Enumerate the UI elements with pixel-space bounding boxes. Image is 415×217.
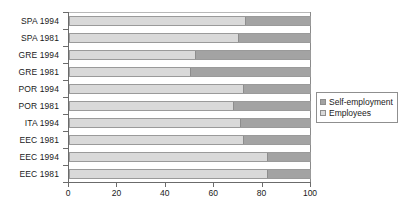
stacked-bar — [69, 118, 311, 128]
bar-segment-self-employment — [245, 17, 310, 25]
stacked-bar — [69, 67, 311, 77]
bar-segment-employees — [70, 85, 243, 93]
stacked-bar — [69, 152, 311, 162]
stacked-bar — [69, 33, 311, 43]
bar-slot — [69, 29, 311, 46]
bar-segment-self-employment — [233, 102, 310, 110]
legend-label: Employees — [329, 108, 371, 118]
y-axis-label: POR 1981 — [0, 97, 64, 114]
bar-slot — [69, 165, 311, 182]
legend-item[interactable]: Employees — [320, 108, 393, 118]
bar-segment-self-employment — [240, 119, 310, 127]
bar-segment-self-employment — [267, 170, 310, 178]
stacked-bar-chart: SPA 1994SPA 1981GRE 1994GRE 1981POR 1994… — [0, 0, 415, 217]
bar-segment-employees — [70, 34, 238, 42]
bar-segment-employees — [70, 119, 240, 127]
legend-label: Self-employment — [329, 97, 393, 107]
x-tick-label: 80 — [257, 188, 266, 198]
y-axis-label: GRE 1994 — [0, 46, 64, 63]
x-tick-label: 20 — [112, 188, 121, 198]
y-axis-category-labels: SPA 1994SPA 1981GRE 1994GRE 1981POR 1994… — [0, 12, 64, 182]
bar-segment-employees — [70, 136, 243, 144]
stacked-bar — [69, 50, 311, 60]
y-axis-label: POR 1994 — [0, 80, 64, 97]
bar-slot — [69, 80, 311, 97]
bar-segment-employees — [70, 68, 190, 76]
x-tick-mark — [165, 183, 166, 187]
legend-swatch-icon — [320, 110, 326, 116]
bar-slot — [69, 131, 311, 148]
stacked-bar — [69, 84, 311, 94]
bar-segment-employees — [70, 170, 267, 178]
x-tick-label: 60 — [208, 188, 217, 198]
bar-slot — [69, 12, 311, 29]
plot-area — [68, 12, 311, 183]
bar-segment-employees — [70, 17, 245, 25]
stacked-bar — [69, 169, 311, 179]
legend-item[interactable]: Self-employment — [320, 97, 393, 107]
y-axis-label: EEC 1981 — [0, 131, 64, 148]
bar-segment-self-employment — [238, 34, 310, 42]
x-tick-mark — [262, 183, 263, 187]
bar-slot — [69, 148, 311, 165]
bar-slot — [69, 114, 311, 131]
bar-group — [69, 12, 311, 182]
bar-segment-employees — [70, 153, 267, 161]
y-axis-label: SPA 1994 — [0, 12, 64, 29]
x-tick-mark — [310, 183, 311, 187]
x-tick-label: 40 — [160, 188, 169, 198]
bar-segment-self-employment — [267, 153, 310, 161]
x-tick-label: 100 — [303, 188, 317, 198]
y-axis-label: EEC 1981 — [0, 165, 64, 182]
bar-segment-self-employment — [190, 68, 310, 76]
x-axis-tick-labels: 020406080100 — [68, 188, 311, 202]
bar-segment-employees — [70, 51, 195, 59]
y-axis-label: ITA 1994 — [0, 114, 64, 131]
legend-swatch-icon — [320, 99, 326, 105]
y-axis-label: EEC 1994 — [0, 148, 64, 165]
stacked-bar — [69, 16, 311, 26]
stacked-bar — [69, 135, 311, 145]
bar-slot — [69, 97, 311, 114]
bar-slot — [69, 46, 311, 63]
x-tick-mark — [116, 183, 117, 187]
bar-slot — [69, 63, 311, 80]
bar-segment-self-employment — [243, 85, 310, 93]
x-tick-mark — [68, 183, 69, 187]
chart-legend: Self-employmentEmployees — [316, 92, 398, 123]
y-axis-label: GRE 1981 — [0, 63, 64, 80]
bar-segment-self-employment — [195, 51, 310, 59]
bar-segment-self-employment — [243, 136, 310, 144]
x-tick-label: 0 — [66, 188, 71, 198]
stacked-bar — [69, 101, 311, 111]
bar-segment-employees — [70, 102, 233, 110]
y-axis-label: SPA 1981 — [0, 29, 64, 46]
x-tick-mark — [213, 183, 214, 187]
